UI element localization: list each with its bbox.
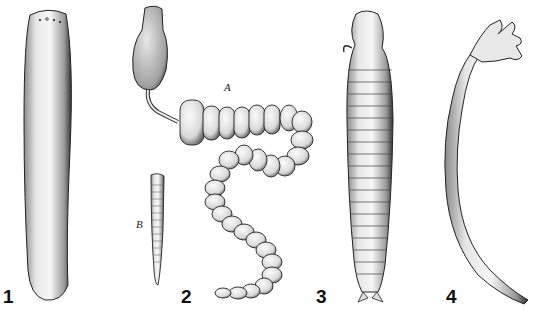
figure-3-worm	[344, 11, 393, 302]
figure-2a-head	[133, 6, 178, 122]
figures-drawing	[0, 0, 540, 311]
sublabel-b: B	[136, 219, 143, 230]
figure-2a-chain	[180, 100, 313, 299]
figure-number-3: 3	[316, 287, 327, 306]
figure-1-worm	[24, 10, 71, 300]
figure-number-1: 1	[3, 287, 14, 306]
sublabel-a: A	[224, 82, 231, 93]
figure-4-worm	[445, 20, 528, 304]
figure-number-2: 2	[181, 287, 192, 306]
figure-2b-larva	[151, 174, 164, 285]
illustration-plate: 1 2 3 4 A B	[0, 0, 540, 311]
figure-number-4: 4	[446, 287, 457, 306]
